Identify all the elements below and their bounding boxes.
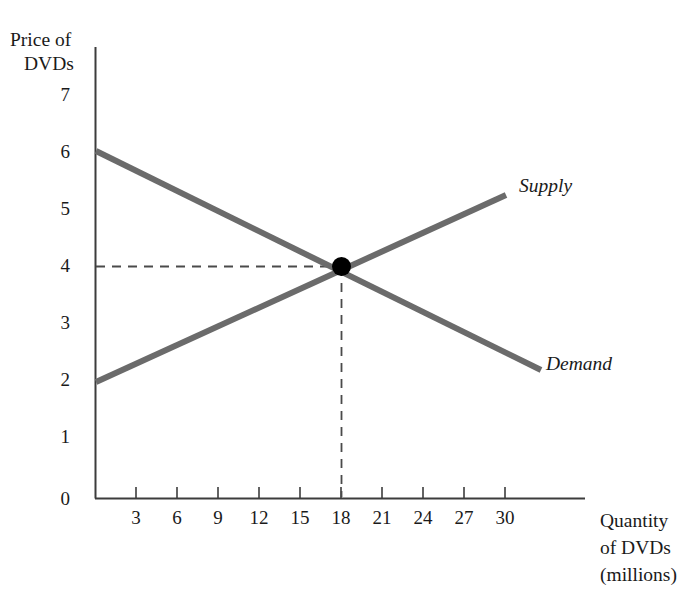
x-tick-label-21: 21 xyxy=(362,507,402,529)
y-tick-label-5: 5 xyxy=(44,198,70,220)
x-tick-label-6: 6 xyxy=(157,507,197,529)
demand-curve xyxy=(96,151,541,370)
y-tick-label-1: 1 xyxy=(44,426,70,448)
x-tick-label-3: 3 xyxy=(116,507,156,529)
x-tick-label-18: 18 xyxy=(321,507,361,529)
y-tick-label-0: 0 xyxy=(44,488,70,510)
supply-demand-figure: nd graph represents Price of D xyxy=(0,0,682,603)
y-tick-label-6: 6 xyxy=(44,141,70,163)
y-tick-label-4: 4 xyxy=(44,255,70,277)
supply-curve-label: Supply xyxy=(519,174,572,197)
x-axis-title-line-3: (millions) xyxy=(600,563,677,586)
x-tick-label-24: 24 xyxy=(403,507,443,529)
x-tick-label-30: 30 xyxy=(485,507,525,529)
x-axis-title-line-2: of DVDs xyxy=(600,536,671,559)
y-tick-label-3: 3 xyxy=(44,312,70,334)
x-axis-ticks xyxy=(136,487,505,498)
x-tick-label-12: 12 xyxy=(239,507,279,529)
x-tick-label-27: 27 xyxy=(444,507,484,529)
equilibrium-point-marker xyxy=(332,257,351,276)
x-axis-title-line-1: Quantity xyxy=(600,509,668,532)
y-tick-label-7: 7 xyxy=(44,84,70,106)
y-tick-label-2: 2 xyxy=(44,369,70,391)
x-tick-label-9: 9 xyxy=(198,507,238,529)
x-tick-label-15: 15 xyxy=(280,507,320,529)
y-axis-title-line-2: DVDs xyxy=(24,52,74,75)
y-axis-title-line-1: Price of xyxy=(10,28,71,51)
supply-curve xyxy=(96,195,506,382)
demand-curve-label: Demand xyxy=(546,352,612,375)
